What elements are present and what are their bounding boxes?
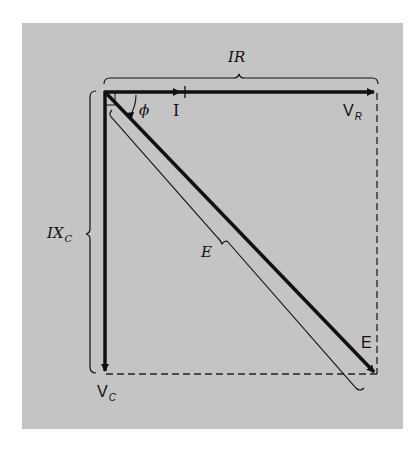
- vc-label: VC: [97, 384, 116, 400]
- ir-label: IR: [228, 50, 245, 65]
- e-tip-label: E: [361, 335, 372, 351]
- vr-label: VR: [343, 103, 362, 119]
- e-brace-label: E: [201, 245, 212, 260]
- current-arrow: [173, 88, 181, 96]
- phi-label: ϕ: [139, 103, 149, 118]
- e-phasor: [106, 93, 374, 372]
- ixc-brace: [86, 91, 96, 373]
- e-brace: [110, 110, 364, 390]
- ixc-label: IXC: [47, 226, 72, 241]
- ir-brace: [104, 74, 378, 84]
- current-label: I: [173, 103, 179, 119]
